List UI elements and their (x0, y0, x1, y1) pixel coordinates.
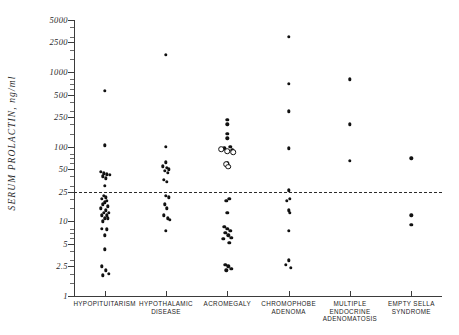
data-point (164, 229, 167, 232)
data-point (410, 214, 413, 217)
y-minor-tick-mark (70, 199, 74, 200)
data-point (106, 217, 109, 220)
data-point (287, 147, 290, 150)
y-tick-label: 10 (59, 216, 68, 226)
x-tick-mark (166, 291, 167, 296)
y-tick-mark (68, 42, 74, 43)
data-point (105, 228, 108, 231)
y-tick-mark (68, 117, 74, 118)
y-tick-mark (68, 72, 74, 73)
data-point (226, 211, 229, 214)
y-axis-tick-labels: 50002500100050025010050251052.51 (0, 20, 68, 296)
y-tick-mark (68, 20, 74, 21)
data-point (99, 207, 102, 210)
y-tick-label: 100 (54, 142, 68, 152)
data-point (103, 248, 106, 251)
data-point (228, 197, 231, 200)
y-tick-label: 5000 (49, 15, 68, 25)
data-point (103, 234, 106, 237)
data-point (219, 147, 225, 153)
data-point (165, 207, 168, 210)
x-tick-mark (350, 291, 351, 296)
y-minor-tick-mark (70, 37, 74, 38)
y-minor-tick-mark (70, 59, 74, 60)
y-minor-tick-mark (70, 89, 74, 90)
y-minor-tick-mark (70, 176, 74, 177)
x-category-label: EMPTY SELLA SYNDROME (374, 300, 448, 315)
data-point (166, 171, 169, 174)
data-point (100, 265, 103, 268)
y-tick-label: 50 (59, 164, 68, 174)
data-point (287, 82, 290, 85)
data-point (231, 150, 237, 156)
data-point (107, 272, 110, 275)
y-minor-tick-mark (70, 274, 74, 275)
data-point (103, 184, 106, 187)
y-minor-tick-mark (70, 84, 74, 85)
data-point (288, 197, 291, 200)
data-point (287, 35, 290, 38)
y-minor-tick-mark (70, 163, 74, 164)
data-point (225, 199, 228, 202)
data-point (101, 273, 104, 276)
y-tick-mark (68, 244, 74, 245)
data-point (101, 220, 104, 223)
data-point (410, 157, 413, 160)
y-tick-mark (68, 192, 74, 193)
data-point (165, 180, 168, 183)
data-point (348, 123, 351, 126)
data-point (226, 118, 229, 121)
y-minor-tick-mark (70, 186, 74, 187)
data-point (287, 229, 290, 232)
y-minor-tick-mark (70, 50, 74, 51)
data-point (225, 148, 231, 154)
data-point (164, 53, 167, 56)
data-point (103, 143, 106, 146)
y-tick-label: 25 (59, 187, 68, 197)
data-point (167, 196, 170, 199)
x-axis-category-labels: HYPOPITUITARISMHYPOTHALAMIC DISEASEACROM… (74, 300, 442, 334)
y-minor-tick-mark (70, 233, 74, 234)
x-tick-mark (411, 291, 412, 296)
y-tick-mark (68, 95, 74, 96)
y-minor-tick-mark (70, 124, 74, 125)
data-point (348, 78, 351, 81)
y-minor-tick-mark (70, 238, 74, 239)
data-point (226, 137, 229, 140)
y-minor-tick-mark (70, 134, 74, 135)
data-point (162, 214, 165, 217)
data-point (285, 199, 288, 202)
data-point (228, 241, 231, 244)
data-point (104, 176, 107, 179)
data-point (226, 164, 232, 170)
y-minor-tick-mark (70, 79, 74, 80)
y-tick-mark (68, 266, 74, 267)
y-minor-tick-mark (70, 229, 74, 230)
data-point (164, 145, 167, 148)
data-point (164, 161, 167, 164)
data-point (226, 132, 229, 135)
data-point (222, 237, 225, 240)
data-point (230, 267, 233, 270)
data-point (287, 109, 290, 112)
y-minor-tick-mark (70, 251, 74, 252)
data-point (230, 236, 233, 239)
y-tick-mark (68, 147, 74, 148)
data-point (161, 164, 164, 167)
y-minor-tick-mark (70, 260, 74, 261)
data-point (284, 263, 287, 266)
y-minor-tick-mark (70, 283, 74, 284)
data-point (289, 266, 292, 269)
reference-line-25 (74, 192, 442, 193)
y-tick-label: 500 (54, 90, 68, 100)
x-tick-mark (105, 291, 106, 296)
x-tick-mark (227, 291, 228, 296)
prolactin-scatter-figure: SERUM PROLACTIN, ng/ml 50002500100050025… (0, 0, 459, 335)
data-point (410, 223, 413, 226)
x-axis-ticks (74, 291, 442, 297)
y-tick-label: 2.5 (56, 261, 68, 271)
data-point (103, 89, 106, 92)
data-point (287, 259, 290, 262)
y-minor-tick-mark (70, 27, 74, 28)
y-minor-tick-mark (70, 111, 74, 112)
